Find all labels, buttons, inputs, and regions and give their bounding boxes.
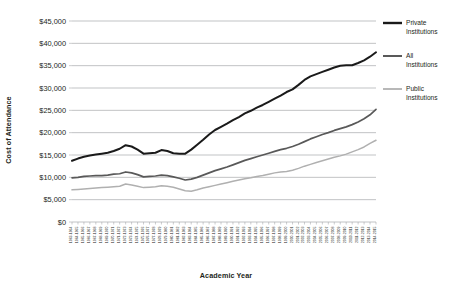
x-axis-tick-label: 2013-2014: [367, 226, 371, 243]
y-axis-tick-label: $5,000: [43, 195, 66, 204]
x-axis-tick-label: 1979-1980: [164, 226, 168, 243]
x-axis-tick-label: 1993-1994: [248, 226, 252, 243]
x-axis-tick-label: 1976-1977: [146, 226, 150, 243]
x-axis-tick-label: 1991-1992: [236, 226, 240, 243]
x-axis-tick-label: 1982-1983: [182, 226, 186, 243]
x-axis-tick-label: 2002-2003: [301, 226, 305, 243]
y-axis-tick-labels: $0$5,000$10,000$15,000$20,000$25,000$30,…: [39, 17, 66, 227]
x-axis-tick-label: 1972-1973: [123, 226, 127, 243]
x-axis-tick-label: 1965-1966: [81, 226, 85, 243]
x-axis-tick-label: 1975-1976: [141, 226, 145, 243]
y-axis-tick-label: $45,000: [39, 17, 66, 26]
x-axis-tick-label: 2009-2010: [343, 226, 347, 243]
x-axis-tick-label: 1977-1978: [152, 226, 156, 243]
x-axis-tick-label: 1973-1974: [129, 226, 133, 243]
x-axis-tick-label: 1994-1995: [254, 226, 258, 243]
legend-label: Institutions: [406, 28, 438, 35]
chart-canvas: $0$5,000$10,000$15,000$20,000$25,000$30,…: [0, 0, 453, 288]
x-axis-tick-label: 1999-2000: [284, 226, 288, 243]
x-axis-tick-label: 1968-1969: [99, 226, 103, 243]
y-axis-tick-label: $0: [58, 218, 66, 227]
y-axis-tick-label: $30,000: [39, 84, 66, 93]
x-axis-tick-label: 2007-2008: [331, 226, 335, 243]
y-axis-tick-label: $25,000: [39, 106, 66, 115]
x-axis-tick-label: 1964-1965: [75, 226, 79, 243]
legend-label: Public: [406, 85, 425, 92]
x-axis-tick-label: 2001-2002: [296, 226, 300, 243]
x-axis-tick-label: 1998-1999: [278, 226, 282, 243]
y-axis-tick-label: $10,000: [39, 173, 66, 182]
series-line-public-institutions: [72, 140, 376, 191]
x-axis-tick-label: 1985-1986: [200, 226, 204, 243]
x-axis-tick-label: 2005-2006: [319, 226, 323, 243]
y-axis-title: Cost of Attendance: [4, 96, 13, 163]
x-axis-title: Academic Year: [200, 271, 252, 280]
x-axis-tick-label: 2012-2013: [361, 226, 365, 243]
x-axis-tick-label: 1997-1998: [272, 226, 276, 243]
legend-label: Institutions: [406, 94, 438, 101]
series-line-all-institutions: [72, 109, 376, 180]
y-axis-tick-label: $15,000: [39, 151, 66, 160]
x-axis-tick-label: 1967-1968: [93, 226, 97, 243]
x-axis-tick-label: 1971-1972: [117, 226, 121, 243]
x-axis-tick-label: 1963-1964: [69, 226, 73, 243]
x-axis-tick-label: 1984-1985: [194, 226, 198, 243]
x-axis-tick-label: 2006-2007: [325, 226, 329, 243]
y-axis-tick-label: $20,000: [39, 128, 66, 137]
x-axis-tick-label: 1978-1979: [158, 226, 162, 243]
x-axis-tick-label: 2008-2009: [337, 226, 341, 243]
x-axis-tick-label: 2010-2011: [349, 226, 353, 243]
x-axis-tick-label: 1980-1981: [170, 226, 174, 243]
legend-label: Institutions: [406, 61, 438, 68]
x-axis-tick-label: 1995-1996: [260, 226, 264, 243]
chart-legend: PrivateInstitutionsAllInstitutionsPublic…: [383, 19, 438, 101]
x-axis-tick-label: 2003-2004: [307, 226, 311, 243]
cost-of-attendance-chart: $0$5,000$10,000$15,000$20,000$25,000$30,…: [0, 0, 453, 288]
x-axis-tick-label: 2000-2001: [290, 226, 294, 243]
legend-label: All: [406, 52, 414, 59]
gridlines: [69, 21, 376, 222]
x-axis-tick-label: 1969-1970: [105, 226, 109, 243]
legend-label: Private: [406, 19, 427, 26]
x-axis-tick-label: 1981-1982: [176, 226, 180, 243]
y-axis-tick-label: $35,000: [39, 61, 66, 70]
x-axis-tick-label: 1970-1971: [111, 226, 115, 243]
x-axis-tick-label: 1983-1984: [188, 226, 192, 243]
x-axis-tick-label: 1996-1997: [266, 226, 270, 243]
x-axis-tick-label: 1986-1987: [206, 226, 210, 243]
x-axis-tick-label: 1987-1988: [212, 226, 216, 243]
x-axis-tick-label: 1974-1975: [135, 226, 139, 243]
y-axis-tick-label: $40,000: [39, 39, 66, 48]
x-axis-tick-label: 1992-1993: [242, 226, 246, 243]
x-axis-tick-label: 1988-1989: [218, 226, 222, 243]
x-axis-tick-labels: 1963-19641964-19651965-19661966-19671967…: [69, 226, 377, 243]
x-axis-tick-label: 2011-2012: [355, 226, 359, 243]
x-axis-tick-label: 2004-2005: [313, 226, 317, 243]
x-axis-tick-label: 1966-1967: [87, 226, 91, 243]
x-axis-tick-label: 1989-1990: [224, 226, 228, 243]
x-axis-tick-label: 1990-1991: [230, 226, 234, 243]
data-series: [72, 52, 376, 191]
series-line-private-institutions: [72, 52, 376, 161]
x-axis-tick-marks: [72, 222, 376, 225]
x-axis-tick-label: 2014-2015: [373, 226, 377, 243]
